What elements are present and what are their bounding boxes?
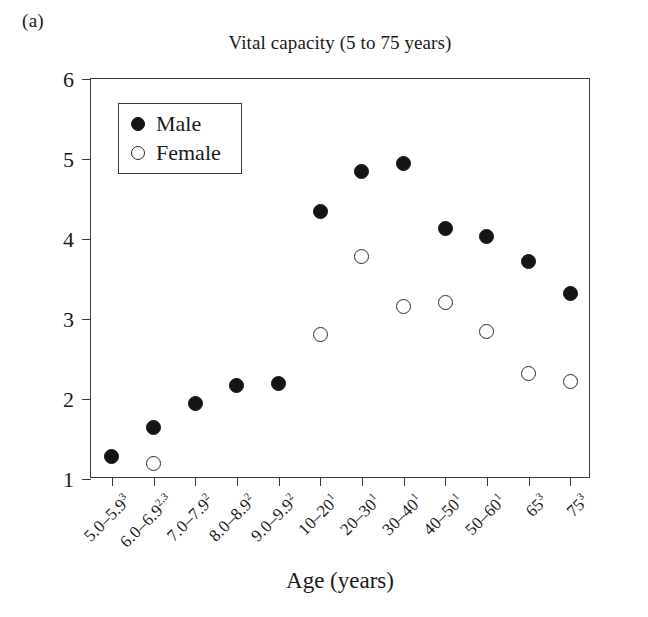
open-circle-icon [131,146,145,160]
y-axis-tick-label: 6 [63,67,74,93]
x-axis-tick [404,477,405,486]
data-point-female [354,249,369,264]
data-point-male [146,420,161,435]
data-point-male [563,286,578,301]
x-axis-tick-label: 20–301 [336,491,385,540]
panel-label: (a) [22,10,44,32]
x-axis-tick-label: 30–401 [378,491,427,540]
x-axis-tick [570,477,571,486]
data-point-male [188,396,203,411]
x-axis-tick-label: 50–601 [461,491,510,540]
x-axis-tick [445,477,446,486]
y-axis-tick: 4 [82,239,91,240]
data-point-male [313,204,328,219]
x-axis-tick [529,477,530,486]
y-axis-tick-label: 5 [63,147,74,173]
x-axis-tick [487,477,488,486]
legend-label-male: Male [156,113,201,135]
chart-title: Vital capacity (5 to 75 years) [90,32,590,54]
legend-item-female: Female [131,138,221,167]
x-axis-tick-label: 753 [563,491,593,521]
data-point-male [104,449,119,464]
y-axis-tick-label: 1 [63,467,74,493]
y-axis-tick: 3 [82,319,91,320]
chart-legend: Male Female [118,103,242,174]
data-point-female [479,324,494,339]
data-point-female [146,456,161,471]
data-point-male [438,221,453,236]
x-axis-title: Age (years) [90,568,590,594]
data-point-female [563,374,578,389]
filled-circle-icon [131,117,145,131]
data-point-male [396,156,411,171]
y-axis-tick: 1 [82,479,91,480]
y-axis-tick: 6 [82,79,91,80]
y-axis-tick-label: 2 [63,387,74,413]
y-axis-tick-label: 3 [63,307,74,333]
data-point-male [354,164,369,179]
x-axis-tick-label: 653 [521,491,551,521]
legend-item-male: Male [131,109,221,138]
x-axis-tick [237,477,238,486]
chart-figure: (a) Vital capacity (5 to 75 years) Vital… [0,0,648,617]
data-point-male [271,376,286,391]
data-point-female [396,299,411,314]
data-point-male [229,378,244,393]
x-axis-tick [154,477,155,486]
data-point-female [521,366,536,381]
x-axis-tick-label: 10–201 [295,491,344,540]
x-axis-tick [320,477,321,486]
data-point-male [479,229,494,244]
data-point-female [438,295,453,310]
x-axis-tick [112,477,113,486]
data-point-male [521,254,536,269]
x-axis-tick [362,477,363,486]
y-axis-tick: 5 [82,159,91,160]
y-axis-tick: 2 [82,399,91,400]
y-axis-tick-label: 4 [63,227,74,253]
legend-label-female: Female [156,142,221,164]
data-point-female [313,327,328,342]
x-axis-tick [195,477,196,486]
x-axis-tick [279,477,280,486]
x-axis-tick-label: 40–501 [420,491,469,540]
